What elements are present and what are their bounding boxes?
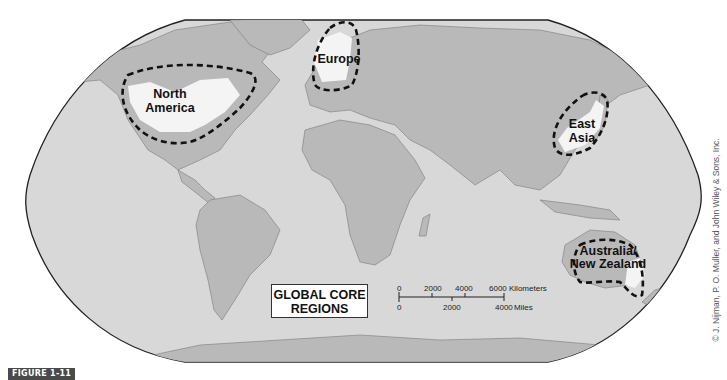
legend-title-line2: REGIONS xyxy=(272,302,367,316)
world-map: North America Europe East Asia Australia… xyxy=(0,0,727,380)
svg-text:2000: 2000 xyxy=(443,303,461,312)
label-east-asia: East xyxy=(569,117,596,131)
svg-text:Kilometers: Kilometers xyxy=(509,284,547,293)
legend-title-line1: GLOBAL CORE xyxy=(272,288,367,302)
legend-title-box: GLOBAL CORE REGIONS xyxy=(271,284,368,318)
label-australia: Australia/ xyxy=(580,244,637,258)
figure-label-badge: FIGURE 1-11 xyxy=(8,368,75,380)
label-north-america-2: America xyxy=(145,101,195,115)
svg-text:2000: 2000 xyxy=(424,284,442,293)
svg-text:0: 0 xyxy=(397,303,402,312)
label-north-america: North xyxy=(153,87,186,101)
label-new-zealand: New Zealand xyxy=(570,257,646,271)
svg-text:4000: 4000 xyxy=(495,303,513,312)
label-east-asia-2: Asia xyxy=(569,131,596,145)
svg-text:Miles: Miles xyxy=(514,303,533,312)
label-europe: Europe xyxy=(317,52,360,66)
copyright-notice: © J. Nijman, P. O. Muller, and John Wile… xyxy=(711,125,721,355)
svg-text:4000: 4000 xyxy=(455,284,473,293)
svg-text:6000: 6000 xyxy=(489,284,507,293)
svg-text:0: 0 xyxy=(397,284,402,293)
